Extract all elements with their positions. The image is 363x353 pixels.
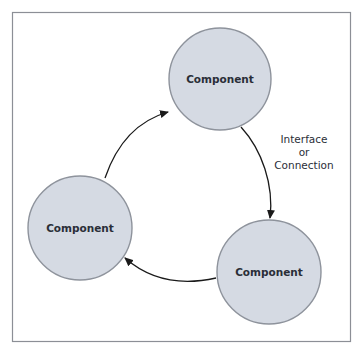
edge-label-line-3: Connection [274, 159, 333, 171]
edge-label-line-1: Interface [280, 133, 327, 145]
node-left: Component [28, 176, 132, 280]
edge-label-line-2: or [299, 146, 310, 158]
diagram-canvas: Component Component Component Interface … [0, 0, 363, 353]
node-right-label: Component [235, 266, 303, 278]
node-top: Component [169, 28, 271, 130]
node-right: Component [217, 220, 321, 324]
node-top-label: Component [186, 73, 254, 85]
node-left-label: Component [46, 222, 114, 234]
